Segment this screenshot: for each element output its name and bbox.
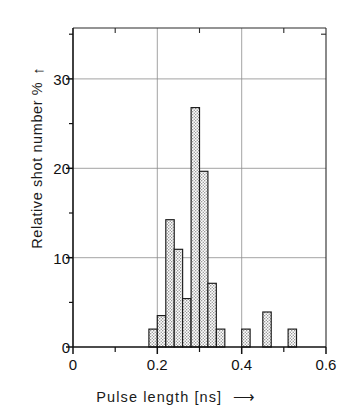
x-axis-arrow-icon: ⟶ bbox=[233, 388, 255, 406]
x-tick-label-0.6: 0.6 bbox=[306, 357, 346, 372]
x-tick-label-0.4: 0.4 bbox=[222, 357, 262, 372]
histogram-figure: 0 10 20 30 0 0.2 0.4 0.6 Relative shot n… bbox=[0, 0, 351, 418]
x-tick-label-0.2: 0.2 bbox=[137, 357, 177, 372]
x-tick-label-0: 0 bbox=[53, 357, 93, 372]
x-tick-label-group: 0 0.2 0.4 0.6 bbox=[0, 0, 351, 418]
x-axis-title: Pulse length [ns] ⟶ bbox=[0, 388, 351, 406]
x-axis-title-text: Pulse length [ns] bbox=[96, 389, 222, 405]
